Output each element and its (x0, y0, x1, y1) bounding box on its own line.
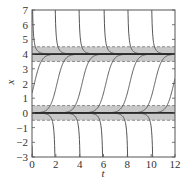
y-tick-label: 5 (23, 33, 29, 45)
y-tick-label: 2 (23, 78, 29, 90)
y-axis-label: x (4, 79, 16, 85)
y-tick-label: 7 (23, 4, 29, 16)
solution-curve (149, 0, 175, 54)
y-tick-label: 1 (23, 92, 29, 104)
solution-curve (32, 113, 104, 180)
x-tick-label: 8 (125, 158, 131, 170)
y-tick-label: 4 (23, 48, 29, 60)
solution-curves (32, 0, 175, 180)
y-tick-label: 3 (23, 63, 29, 75)
x-tick-label: 12 (170, 158, 181, 170)
plot-frame (32, 10, 175, 157)
x-tick-label: 4 (77, 158, 83, 170)
axes (32, 10, 175, 157)
chart: 024681012 −3−2−101234567 t x (0, 0, 191, 180)
x-tick-label: 0 (29, 158, 35, 170)
y-tick-label: −3 (16, 151, 28, 163)
solution-curve (125, 0, 175, 54)
x-axis-ticks: 024681012 (29, 154, 180, 170)
x-tick-label: 10 (146, 158, 158, 170)
solution-curve (32, 54, 175, 113)
y-tick-label: −2 (16, 136, 28, 148)
solution-curve (32, 54, 175, 113)
solution-curve (32, 54, 175, 113)
solution-curve (101, 0, 175, 54)
y-tick-label: 6 (23, 19, 29, 31)
solution-curve (32, 113, 154, 180)
solution-curve (32, 54, 175, 113)
x-tick-label: 2 (53, 158, 59, 170)
equilibrium-bands (32, 47, 175, 121)
solution-curve (32, 113, 56, 180)
solution-curve (32, 54, 175, 113)
solution-curve (32, 0, 175, 54)
y-tick-label: 0 (23, 107, 29, 119)
y-axis-ticks: −3−2−101234567 (16, 4, 175, 163)
solution-curve (52, 0, 175, 54)
y-tick-label: −1 (16, 122, 28, 134)
solution-curve (76, 0, 175, 54)
